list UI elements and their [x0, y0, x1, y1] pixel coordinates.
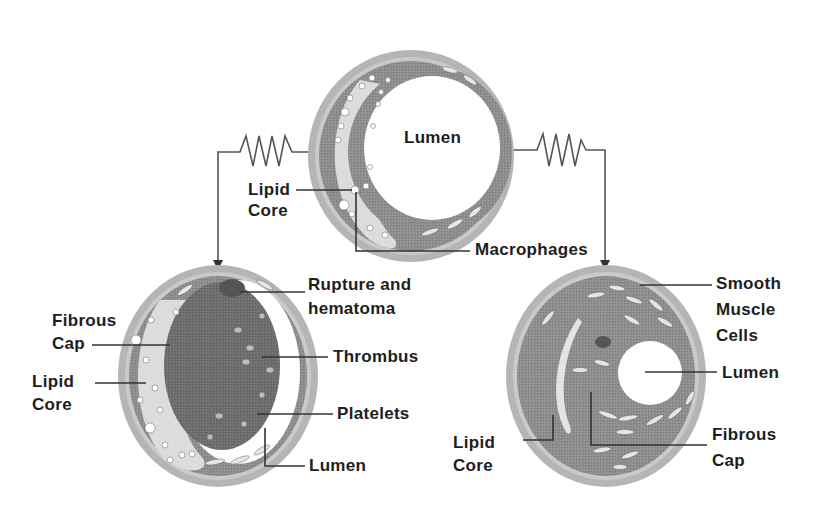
label-right-fibrous-cap-line2: Cap	[712, 451, 745, 471]
label-right-lipid-core-line1: Lipid	[453, 433, 495, 453]
label-left-rupture-line1: Rupture and	[308, 275, 411, 295]
label-top-macrophages: Macrophages	[475, 240, 588, 260]
label-left-thrombus: Thrombus	[333, 347, 419, 367]
label-left-platelets: Platelets	[337, 404, 410, 424]
label-left-fibrous-cap-line2: Cap	[52, 334, 85, 354]
label-right-smooth-muscle-line1: Smooth	[716, 274, 781, 294]
top-vessel	[308, 50, 514, 262]
label-right-lipid-core-line2: Core	[453, 456, 493, 476]
label-left-lipid-core-line2: Core	[32, 395, 72, 415]
label-left-fibrous-cap-line1: Fibrous	[52, 311, 116, 331]
label-top-lipid-core-line1: Lipid	[248, 180, 290, 200]
label-right-lumen: Lumen	[722, 363, 779, 383]
label-top-lumen: Lumen	[404, 128, 461, 148]
label-right-fibrous-cap-line1: Fibrous	[712, 425, 776, 445]
label-top-lipid-core-line2: Core	[248, 201, 288, 221]
label-right-smooth-muscle-line2: Muscle	[716, 300, 775, 320]
label-left-lipid-core-line1: Lipid	[32, 372, 74, 392]
label-left-lumen: Lumen	[309, 456, 366, 476]
label-right-smooth-muscle-line3: Cells	[716, 326, 758, 346]
right-vessel	[506, 265, 706, 487]
label-left-rupture-line2: hematoma	[308, 299, 395, 319]
left-vessel	[118, 265, 318, 487]
